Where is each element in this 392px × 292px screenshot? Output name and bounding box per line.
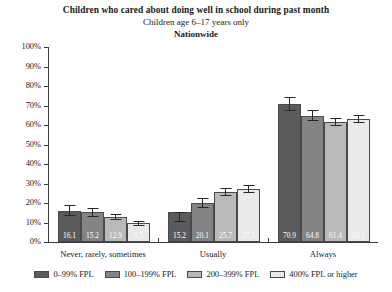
error-bar-cap-bottom <box>353 122 364 123</box>
y-axis-tick-label: 60% <box>26 121 41 129</box>
legend-swatch <box>270 271 285 278</box>
legend-swatch <box>105 271 120 278</box>
bar[interactable]: 12.9 <box>104 217 127 242</box>
legend-swatch <box>187 271 202 278</box>
error-bar <box>133 221 144 227</box>
bar[interactable]: 63.1 <box>347 119 370 242</box>
legend-label: 400% FPL or higher <box>289 270 357 279</box>
y-axis-tick-label: 40% <box>26 160 41 168</box>
bar-value-label: 15.2 <box>86 232 99 242</box>
bar[interactable]: 25.7 <box>214 192 237 242</box>
error-bar-cap-bottom <box>174 221 185 222</box>
y-axis-tick-label: 70% <box>26 102 41 110</box>
y-axis-tick-label: 50% <box>26 141 41 149</box>
bar[interactable]: 61.4 <box>324 122 347 242</box>
y-axis-tick <box>44 164 48 165</box>
error-bar-cap-bottom <box>220 195 231 196</box>
error-bar-cap-top <box>307 110 318 111</box>
bar-slot: 27.3 <box>237 47 260 242</box>
error-bar <box>284 97 295 111</box>
y-axis-tick <box>44 125 48 126</box>
error-bar <box>197 198 208 208</box>
error-bar-cap-bottom <box>284 110 295 111</box>
bar-groups: 16.115.212.99.515.220.125.727.370.964.86… <box>49 47 378 242</box>
bar[interactable]: 70.9 <box>278 104 301 242</box>
x-axis-labels: Never, rarely, sometimesUsuallyAlways <box>48 249 378 263</box>
group-separator <box>268 238 269 243</box>
error-bar-cap-bottom <box>110 219 121 220</box>
y-axis-tick <box>44 145 48 146</box>
plot-area: 0%10%20%30%40%50%60%70%80%90%100% 16.115… <box>48 47 378 243</box>
y-axis-tick <box>44 242 48 243</box>
y-axis-tick-label: 0% <box>30 238 41 246</box>
y-axis-tick <box>44 67 48 68</box>
bar-slot: 15.2 <box>81 47 104 242</box>
legend-label: 0–99% FPL <box>53 270 93 279</box>
error-bar <box>64 205 75 216</box>
bar-value-label: 12.9 <box>109 232 122 242</box>
bar-slot: 61.4 <box>324 47 347 242</box>
bar-slot: 25.7 <box>214 47 237 242</box>
error-bar-cap-bottom <box>197 207 208 208</box>
bar-group: 15.220.125.727.3 <box>159 47 269 242</box>
bar-value-label: 63.1 <box>352 232 365 242</box>
error-bar-stem <box>289 97 290 111</box>
bar-value-label: 64.8 <box>306 232 319 242</box>
error-bar <box>307 110 318 121</box>
chart-title: Children who cared about doing well in s… <box>0 4 392 16</box>
y-axis-tick <box>44 86 48 87</box>
bar-slot: 15.2 <box>168 47 191 242</box>
y-axis-tick <box>44 184 48 185</box>
y-axis-tick <box>44 203 48 204</box>
y-axis-tick-label: 90% <box>26 63 41 71</box>
error-bar-cap-bottom <box>243 192 254 193</box>
bar[interactable]: 64.8 <box>301 116 324 242</box>
y-axis-tick-label: 80% <box>26 82 41 90</box>
bar-slot: 20.1 <box>191 47 214 242</box>
bar-slot: 64.8 <box>301 47 324 242</box>
chart-legend: 0–99% FPL100–199% FPL200–399% FPL400% FP… <box>0 270 392 279</box>
bar-value-label: 20.1 <box>196 232 209 242</box>
error-bar-cap-top <box>330 118 341 119</box>
bar-value-label: 70.9 <box>283 232 296 242</box>
chart-subtitle-secondary: Nationwide <box>0 28 392 40</box>
x-axis-category-label: Never, rarely, sometimes <box>60 249 145 260</box>
legend-label: 100–199% FPL <box>124 270 177 279</box>
legend-item[interactable]: 100–199% FPL <box>105 270 177 279</box>
y-axis-tick <box>44 223 48 224</box>
error-bar-cap-bottom <box>330 125 341 126</box>
legend-item[interactable]: 0–99% FPL <box>34 270 93 279</box>
y-axis-tick-label: 30% <box>26 180 41 188</box>
legend-item[interactable]: 400% FPL or higher <box>270 270 357 279</box>
error-bar-cap-top <box>110 214 121 215</box>
bar-slot: 9.5 <box>127 47 150 242</box>
bar-value-label: 61.4 <box>329 232 342 242</box>
bar[interactable]: 27.3 <box>237 189 260 242</box>
legend-item[interactable]: 200–399% FPL <box>187 270 259 279</box>
error-bar-cap-top <box>133 221 144 222</box>
y-axis-tick-label: 100% <box>21 43 41 51</box>
error-bar-cap-top <box>353 115 364 116</box>
x-axis-category-label: Always <box>310 249 336 260</box>
error-bar <box>174 212 185 222</box>
bar[interactable]: 20.1 <box>191 203 214 242</box>
bar-slot: 63.1 <box>347 47 370 242</box>
error-bar <box>330 118 341 126</box>
bar-value-label: 15.2 <box>173 232 186 242</box>
error-bar <box>110 214 121 221</box>
bar-value-label: 9.5 <box>134 232 143 242</box>
bar-value-label: 27.3 <box>242 232 255 242</box>
y-axis-tick <box>44 106 48 107</box>
y-axis-tick <box>44 47 48 48</box>
error-bar-cap-top <box>284 97 295 98</box>
bar-group: 16.115.212.99.5 <box>49 47 159 242</box>
group-separator <box>158 238 159 243</box>
y-axis-tick-label: 20% <box>26 199 41 207</box>
error-bar-cap-bottom <box>87 216 98 217</box>
error-bar <box>243 185 254 193</box>
error-bar-cap-bottom <box>64 215 75 216</box>
error-bar <box>87 208 98 217</box>
chart-container: Children who cared about doing well in s… <box>0 0 392 292</box>
error-bar-cap-top <box>87 208 98 209</box>
x-axis-line <box>48 242 378 243</box>
